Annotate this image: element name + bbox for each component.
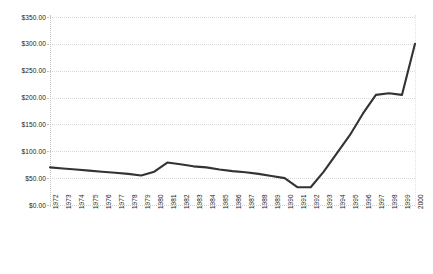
line-chart: $0.00$50.00$100.00$150.00$200.00$250.00$… bbox=[0, 0, 433, 274]
data-series-line bbox=[0, 0, 433, 274]
